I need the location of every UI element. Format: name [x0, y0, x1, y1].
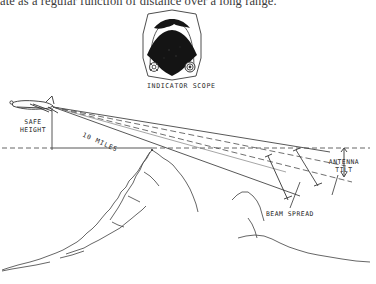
diagram-page: ate as a regular function of distance ov…: [0, 0, 376, 284]
safe-height-line-1: SAFE: [10, 118, 56, 126]
beam-spread-caliper: [268, 156, 288, 200]
beam-spread-leader: [290, 182, 300, 208]
beam-terrain-diagram: [0, 0, 376, 284]
antenna-tilt-line-1: ANTENNA: [318, 158, 370, 166]
beam-spread-label: BEAM SPREAD: [266, 210, 336, 218]
antenna-tilt-label: ANTENNA TILT: [318, 158, 370, 174]
safe-height-line-2: HEIGHT: [10, 126, 56, 134]
beam-spread-caliper-2: [296, 150, 318, 186]
beam-edge-upper: [53, 107, 330, 152]
safe-height-label: SAFE HEIGHT: [10, 118, 56, 134]
aircraft-icon: [10, 96, 58, 113]
beam-spread-tick-bottom: [284, 196, 292, 199]
antenna-tilt-line-2: TILT: [318, 166, 370, 174]
beam-edge-lower: [53, 107, 300, 196]
terrain-beam-contact: [151, 149, 153, 151]
